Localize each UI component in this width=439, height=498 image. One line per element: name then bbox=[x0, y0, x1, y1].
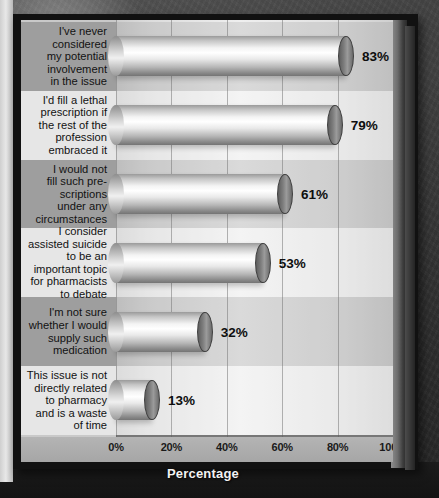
category-label-line: I'd fill a lethal bbox=[23, 94, 107, 107]
category-label-line: scriptions bbox=[23, 188, 107, 201]
bar-value-label: 83% bbox=[362, 49, 389, 64]
chart-frame-3d-shadow bbox=[405, 26, 415, 470]
category-label-line: for pharmacists bbox=[23, 275, 107, 288]
category-label-line: profession bbox=[23, 131, 107, 144]
category-label-line: involvement bbox=[23, 63, 107, 76]
category-label-line: prescription if bbox=[23, 106, 107, 119]
bar-end-cap bbox=[255, 243, 271, 283]
category-label-line: fill such pre- bbox=[23, 175, 107, 188]
bar-body bbox=[116, 243, 263, 283]
x-tick-label: 100% bbox=[379, 441, 393, 453]
bar-value-label: 61% bbox=[301, 187, 328, 202]
bar bbox=[116, 105, 335, 145]
category-label-line: considered bbox=[23, 38, 107, 51]
bar-body bbox=[116, 174, 285, 214]
gridline bbox=[282, 20, 283, 435]
bar-value-label: 13% bbox=[168, 393, 195, 408]
category-label-line: medication bbox=[23, 344, 107, 357]
plot-area: 83%79%61%53%32%13% bbox=[116, 20, 393, 462]
category-label-line: I consider bbox=[23, 225, 107, 238]
category-label-line: the rest of the bbox=[23, 119, 107, 132]
x-tick-label: 0% bbox=[108, 441, 124, 453]
category-label-line: under any bbox=[23, 200, 107, 213]
category-label-line: I've never bbox=[23, 25, 107, 38]
category-label-line: whether I would bbox=[23, 319, 107, 332]
category-label: I would notfill such pre-scriptionsunder… bbox=[23, 160, 111, 229]
gridline bbox=[227, 20, 228, 435]
category-label-line: embraced it bbox=[23, 144, 107, 157]
category-label: I'd fill a lethalprescription ifthe rest… bbox=[23, 91, 111, 160]
category-label-line: of time bbox=[23, 419, 107, 432]
gridline bbox=[116, 20, 117, 435]
gridline bbox=[338, 20, 339, 435]
bar-end-cap bbox=[327, 105, 343, 145]
category-label-line: important topic bbox=[23, 263, 107, 276]
bar bbox=[116, 174, 285, 214]
bar-value-label: 32% bbox=[221, 324, 248, 339]
bar bbox=[116, 312, 205, 352]
bar-value-label: 53% bbox=[279, 255, 306, 270]
x-tick-label: 20% bbox=[161, 441, 182, 453]
category-label-line: to pharmacy bbox=[23, 394, 107, 407]
category-label-line: I'm not sure bbox=[23, 306, 107, 319]
category-label-line: to be an bbox=[23, 250, 107, 263]
category-label: I've neverconsideredmy potentialinvolvem… bbox=[23, 22, 111, 91]
chart-panel: 83%79%61%53%32%13% 0%20%40%60%80%100% I'… bbox=[21, 20, 393, 462]
bar-end-cap bbox=[277, 174, 293, 214]
bar bbox=[116, 36, 346, 76]
bar bbox=[116, 243, 263, 283]
category-label-line: assisted suicide bbox=[23, 238, 107, 251]
bar-end-cap bbox=[338, 36, 354, 76]
bar-body bbox=[116, 36, 346, 76]
category-label-line: This issue is not bbox=[23, 369, 107, 382]
category-label: I'm not surewhether I wouldsupply suchme… bbox=[23, 297, 111, 366]
category-label: I considerassisted suicideto be animport… bbox=[23, 228, 111, 297]
category-label-line: circumstances bbox=[23, 213, 107, 226]
category-label-line: and is a waste bbox=[23, 407, 107, 420]
left-edge-strip bbox=[0, 0, 13, 482]
x-tick-label: 80% bbox=[327, 441, 348, 453]
bar-body bbox=[116, 105, 335, 145]
x-axis-title: Percentage bbox=[13, 466, 393, 481]
x-tick-label: 40% bbox=[216, 441, 237, 453]
category-label-line: I would not bbox=[23, 163, 107, 176]
bar-body bbox=[116, 312, 205, 352]
category-label: This issue is notdirectly relatedto phar… bbox=[23, 366, 111, 435]
bar-value-label: 79% bbox=[351, 118, 378, 133]
gridline bbox=[171, 20, 172, 435]
category-label-line: my potential bbox=[23, 50, 107, 63]
bar bbox=[116, 380, 152, 420]
category-label-line: directly related bbox=[23, 382, 107, 395]
bar-end-cap bbox=[197, 312, 213, 352]
x-tick-label: 60% bbox=[271, 441, 292, 453]
category-label-line: in the issue bbox=[23, 75, 107, 88]
category-label-line: supply such bbox=[23, 332, 107, 345]
